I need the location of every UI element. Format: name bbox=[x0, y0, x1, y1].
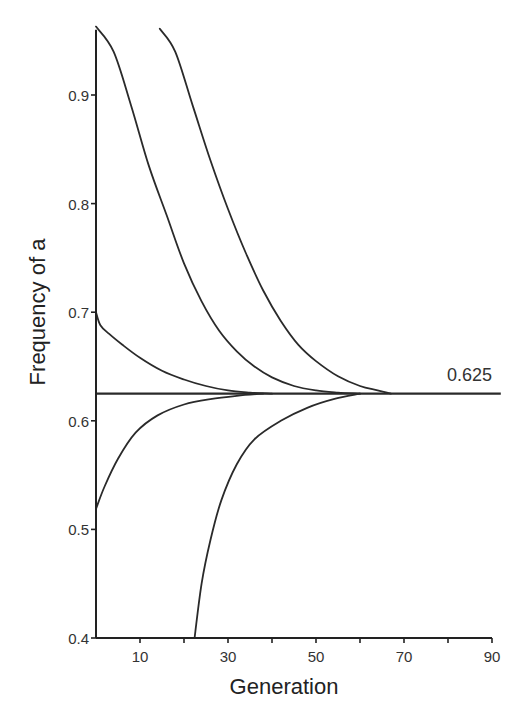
x-tick-label: 30 bbox=[220, 648, 237, 665]
y-tick-label: 0.7 bbox=[68, 304, 89, 321]
y-tick-label: 0.5 bbox=[68, 521, 89, 538]
chart-background bbox=[0, 0, 521, 721]
x-tick-label: 70 bbox=[396, 648, 413, 665]
x-tick-label: 10 bbox=[132, 648, 149, 665]
x-tick-label: 50 bbox=[308, 648, 325, 665]
y-tick-label: 0.8 bbox=[68, 196, 89, 213]
y-tick-label: 0.4 bbox=[68, 630, 89, 647]
x-tick-label: 90 bbox=[484, 648, 501, 665]
y-tick-label: 0.6 bbox=[68, 413, 89, 430]
equilibrium-annotation: 0.625 bbox=[447, 365, 492, 385]
y-tick-label: 0.9 bbox=[68, 87, 89, 104]
x-axis-label: Generation bbox=[230, 674, 339, 699]
y-axis-label: Frequency of a bbox=[25, 238, 50, 386]
chart: 0.40.50.60.70.80.9 1030507090 0.625 Gene… bbox=[0, 0, 521, 721]
